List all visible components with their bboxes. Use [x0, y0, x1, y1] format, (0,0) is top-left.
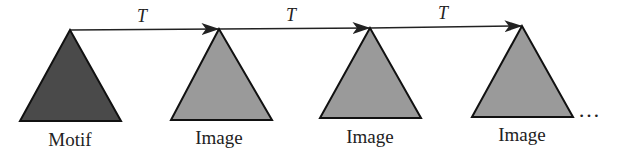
node-label-image-3: Image	[472, 124, 572, 146]
arrow-2	[219, 28, 369, 29]
arrow-1	[70, 29, 218, 30]
image-triangle-1	[171, 29, 272, 120]
node-label-image-2: Image	[320, 126, 420, 148]
edge-label-3: T	[438, 3, 448, 24]
image-triangle-2	[320, 28, 421, 118]
continuation-ellipsis: …	[578, 97, 601, 123]
node-label-motif: Motif	[20, 129, 120, 151]
arrow-3	[370, 26, 521, 28]
edge-label-2: T	[286, 5, 296, 26]
image-triangle-3	[472, 26, 573, 117]
edge-label-1: T	[137, 6, 147, 27]
motif-triangle	[20, 30, 121, 121]
node-label-image-1: Image	[169, 127, 269, 149]
